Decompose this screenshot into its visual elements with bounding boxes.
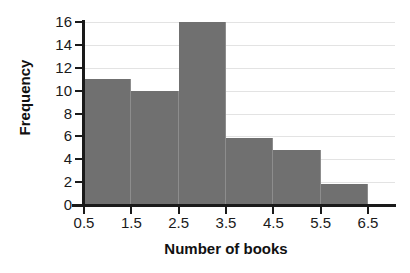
y-tick-mark [75, 181, 84, 183]
y-tick-mark [75, 90, 84, 92]
y-tick-mark [75, 113, 84, 115]
x-axis-line [72, 204, 396, 207]
histogram-bar [84, 79, 131, 205]
histogram-bar [226, 138, 273, 205]
bars-layer [84, 22, 395, 205]
y-tick-mark [75, 204, 84, 206]
x-tick-label: 0.5 [61, 215, 107, 230]
x-tick-label: 4.5 [250, 215, 296, 230]
histogram-bar [273, 150, 320, 205]
x-tick-mark [83, 205, 85, 214]
x-tick-mark [178, 205, 180, 214]
y-axis-title: Frequency [16, 43, 33, 153]
histogram-chart: 0246810121416 0.51.52.53.54.55.56.5 Freq… [0, 0, 410, 273]
x-tick-label: 6.5 [345, 215, 391, 230]
x-tick-mark [130, 205, 132, 214]
x-tick-mark [367, 205, 369, 214]
y-tick-label: 0 [46, 197, 72, 212]
y-tick-mark [75, 135, 84, 137]
x-axis-title: Number of books [84, 240, 368, 257]
y-tick-label: 16 [46, 14, 72, 29]
x-tick-label: 1.5 [108, 215, 154, 230]
histogram-bar [179, 22, 226, 205]
y-tick-label: 8 [46, 106, 72, 121]
y-tick-label: 14 [46, 37, 72, 52]
x-tick-mark [272, 205, 274, 214]
y-tick-mark [75, 21, 84, 23]
y-tick-label: 4 [46, 151, 72, 166]
x-tick-label: 5.5 [298, 215, 344, 230]
histogram-bar [321, 184, 368, 205]
y-tick-label: 2 [46, 174, 72, 189]
x-tick-label: 3.5 [203, 215, 249, 230]
y-tick-mark [75, 67, 84, 69]
y-tick-mark [75, 44, 84, 46]
y-tick-label: 6 [46, 128, 72, 143]
y-tick-label: 10 [46, 83, 72, 98]
y-tick-mark [75, 158, 84, 160]
y-tick-label: 12 [46, 60, 72, 75]
histogram-bar [131, 91, 178, 205]
y-tick-labels: 0246810121416 [44, 0, 72, 273]
x-tick-label: 2.5 [156, 215, 202, 230]
x-tick-mark [320, 205, 322, 214]
x-tick-mark [225, 205, 227, 214]
